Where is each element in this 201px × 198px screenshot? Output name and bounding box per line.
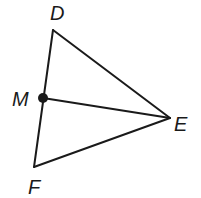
- label-D: D: [50, 2, 64, 24]
- segment-DE: [53, 30, 170, 118]
- segment-EF: [34, 118, 170, 167]
- point-M-dot: [38, 93, 48, 103]
- label-E: E: [174, 113, 188, 135]
- label-M: M: [12, 88, 29, 110]
- triangle-diagram: D M F E: [0, 0, 201, 198]
- label-F: F: [28, 176, 42, 198]
- segment-ME: [43, 98, 170, 118]
